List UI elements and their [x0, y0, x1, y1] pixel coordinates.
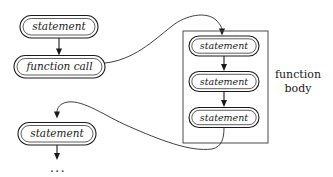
function-body-label-line2: body: [285, 82, 313, 95]
function-body-label-line1: function: [275, 68, 321, 81]
arrowhead-icon: [54, 112, 60, 119]
arrowhead-icon: [219, 29, 225, 36]
continuation-ellipsis: ...: [50, 161, 66, 175]
diagram-svg: statement function call statement: [0, 0, 333, 177]
edge-body1-to-body2: [221, 56, 227, 71]
node-caller-statement-1: statement: [20, 16, 98, 39]
edge-stmt2-to-ellipsis: [54, 145, 60, 160]
node-caller-statement-2: statement: [18, 123, 96, 146]
node-label: function call: [25, 60, 92, 72]
diagram-canvas: statement function call statement: [0, 0, 333, 177]
arrowhead-icon: [221, 100, 227, 107]
node-body-statement-3: statement: [189, 108, 259, 128]
node-body-statement-1: statement: [189, 36, 259, 56]
arrowhead-icon: [56, 49, 62, 56]
node-caller-function-call: function call: [14, 56, 105, 79]
function-body-label: function body: [275, 68, 321, 95]
node-label: statement: [32, 20, 86, 32]
edge-stmt1-to-call: [56, 38, 62, 56]
node-label: statement: [200, 40, 249, 51]
node-label: statement: [200, 76, 249, 87]
node-body-statement-2: statement: [189, 72, 259, 92]
node-label: statement: [30, 127, 84, 139]
node-label: statement: [200, 112, 249, 123]
arrowhead-icon: [221, 64, 227, 71]
arrowhead-icon: [54, 153, 60, 160]
edge-body2-to-body3: [221, 92, 227, 108]
